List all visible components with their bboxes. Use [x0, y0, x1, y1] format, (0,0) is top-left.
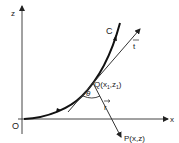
tangent-line	[68, 29, 140, 112]
vector-r-line	[93, 83, 121, 137]
tangent-label-group: t	[133, 40, 139, 51]
point-p-label: P(x,z)	[124, 134, 145, 143]
x-axis-label: x	[170, 115, 174, 124]
theta-label: θ	[86, 89, 91, 98]
diagram-canvas: z x O C t Q(x1,z1) θ r P(x,z)	[0, 0, 179, 143]
z-axis-label: z	[11, 9, 15, 18]
tangent-label: t	[133, 42, 136, 51]
vector-r-label: r	[104, 103, 107, 112]
point-q-label: Q(x1,z1)	[94, 80, 122, 90]
curve-label: C	[106, 26, 113, 36]
origin-label: O	[12, 121, 19, 131]
